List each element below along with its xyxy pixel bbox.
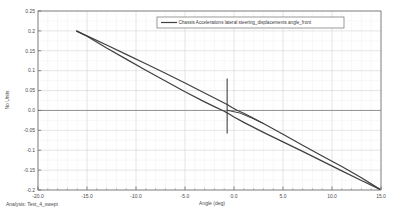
y-tick-label: -0.15 — [24, 167, 36, 173]
chart-container: -20.0-15.0-10.0-5.00.05.010.015.00.250.2… — [0, 0, 394, 218]
x-tick-label: -10.0 — [130, 193, 142, 199]
y-tick-label: 0.0 — [28, 107, 35, 113]
y-tick-label: -0.2 — [26, 187, 35, 193]
legend-entry-label: Chassis Accelerations lateral steering_d… — [179, 20, 312, 25]
analysis-label: Analysis: Test_4_swept — [6, 201, 58, 207]
x-tick-label: -20.0 — [32, 193, 44, 199]
y-tick-label: 0.25 — [25, 8, 35, 14]
x-tick-label: -5.0 — [181, 193, 190, 199]
x-tick-label: 0.0 — [231, 193, 238, 199]
x-tick-label: 15.0 — [376, 193, 386, 199]
y-tick-label: -0.1 — [26, 147, 35, 153]
plot-svg: -20.0-15.0-10.0-5.00.05.010.015.00.250.2… — [0, 0, 394, 218]
x-axis-title: Angle (deg) — [199, 200, 225, 206]
y-tick-label: -0.05 — [24, 127, 36, 133]
y-tick-label: 0.15 — [25, 48, 35, 54]
y-tick-label: 0.1 — [28, 67, 35, 73]
x-tick-label: -15.0 — [81, 193, 93, 199]
x-tick-label: 5.0 — [280, 193, 287, 199]
y-tick-label: 0.05 — [25, 87, 35, 93]
legend-box[interactable]: Chassis Accelerations lateral steering_d… — [157, 17, 344, 28]
chart-background — [0, 0, 394, 218]
y-tick-label: 0.2 — [28, 28, 35, 34]
x-tick-label: 10.0 — [327, 193, 337, 199]
y-axis-title: No Units — [4, 90, 10, 110]
